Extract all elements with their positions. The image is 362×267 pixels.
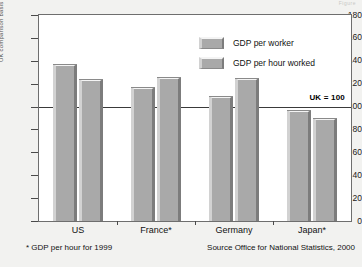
bar — [235, 78, 259, 221]
y-axis-tick-mark — [31, 198, 38, 199]
chart-source-note: Source Office for National Statistics, 2… — [207, 243, 355, 252]
bar — [287, 110, 311, 221]
x-axis-category-label: US — [39, 225, 117, 235]
legend-swatch-icon — [199, 57, 224, 69]
y-axis-tick-mark — [31, 61, 38, 62]
corner-text-fragment: Figure — [339, 0, 356, 6]
bar — [209, 96, 233, 221]
legend-label: GDP per hour worked — [233, 58, 315, 68]
legend-item: GDP per hour worked — [199, 56, 315, 69]
legend-swatch-icon — [199, 37, 224, 49]
uk-reference-label: UK = 100 — [309, 93, 345, 102]
y-axis-tick-mark — [31, 175, 38, 176]
y-axis-tick-mark — [31, 152, 38, 153]
bar — [79, 79, 103, 221]
bar — [53, 64, 77, 221]
y-axis-tick-mark — [31, 107, 38, 108]
y-axis-tick-mark — [31, 15, 38, 16]
chart-footnote: * GDP per hour for 1999 — [26, 243, 112, 252]
legend-item: GDP per worker — [199, 36, 315, 49]
x-axis-category-label: Germany — [195, 225, 273, 235]
y-axis-tick-mark — [31, 221, 38, 222]
bar — [157, 77, 181, 221]
x-axis-category-label: France* — [117, 225, 195, 235]
legend-label: GDP per worker — [233, 38, 294, 48]
y-axis-tick-mark — [31, 129, 38, 130]
chart-legend: GDP per worker GDP per hour worked — [199, 36, 315, 76]
bar — [313, 118, 337, 221]
y-axis-title: UK comparison basis — [0, 0, 4, 62]
gdp-comparison-chart: Figure UK comparison basis 0204060801001… — [0, 0, 362, 267]
y-axis-tick-mark — [31, 84, 38, 85]
y-axis-tick-mark — [31, 38, 38, 39]
x-axis-category-label: Japan* — [273, 225, 351, 235]
plot-area: UK = 100 GDP per worker GDP per hour wor… — [38, 14, 352, 222]
bar — [131, 87, 155, 221]
